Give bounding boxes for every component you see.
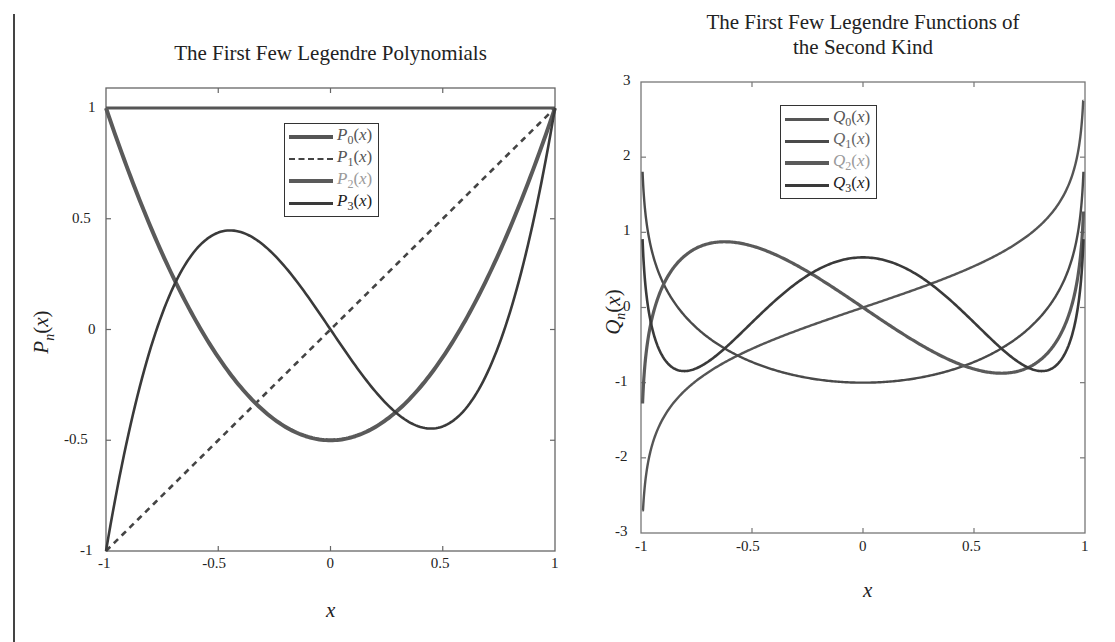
right-x-axis-label: x	[863, 578, 872, 603]
right-y-tick-label: 2	[623, 147, 631, 164]
right-legend-label: Q3(x)	[833, 173, 870, 196]
right-y-label-x: x	[601, 296, 625, 305]
left-y-label-arg: (	[29, 327, 53, 334]
left-y-tick-label: 0	[88, 321, 96, 338]
right-legend-label: Q2(x)	[833, 151, 870, 174]
right-legend-entry-2: Q2(x)	[785, 152, 870, 174]
right-y-tick-label: 3	[623, 72, 631, 89]
right-x-tick-label: -1	[635, 538, 648, 555]
right-legend: Q0(x)Q1(x)Q2(x)Q3(x)	[780, 105, 877, 199]
figure-canvas	[0, 0, 1115, 642]
right-legend-line-swatch	[785, 184, 829, 187]
left-y-label-base: P	[29, 341, 53, 354]
left-x-tick-label: -0.5	[202, 555, 226, 572]
left-x-tick-label: 0	[327, 555, 335, 572]
right-x-tick-label: 0.5	[962, 538, 981, 555]
left-legend-entry-3: P3(x)	[289, 192, 372, 214]
right-x-tick-label: -0.5	[736, 538, 760, 555]
left-y-label-close: )	[29, 311, 53, 318]
left-x-tick-label: 1	[551, 555, 559, 572]
right-y-label-close: )	[601, 289, 625, 296]
right-y-tick-label: -2	[615, 448, 628, 465]
right-y-tick-label: 0	[623, 298, 631, 315]
left-legend-line-swatch	[289, 202, 333, 205]
left-legend-line-swatch	[289, 135, 333, 139]
left-legend-label: P2(x)	[337, 169, 372, 192]
right-legend-line-swatch	[785, 161, 829, 165]
right-legend-label: Q0(x)	[833, 107, 870, 130]
left-legend-entry-0: P0(x)	[289, 126, 372, 148]
left-y-tick-label: -1	[80, 542, 93, 559]
left-x-axis-label: x	[326, 598, 335, 623]
left-x-tick-label: 0.5	[431, 555, 450, 572]
left-y-axis-label: Pn(x)	[29, 311, 57, 354]
right-chart-title-line1: The First Few Legendre Functions of	[641, 10, 1085, 35]
right-legend-entry-3: Q3(x)	[785, 174, 870, 196]
right-y-tick-label: 1	[623, 222, 631, 239]
left-legend: P0(x)P1(x)P2(x)P3(x)	[284, 123, 379, 217]
right-y-label-base: Q	[601, 320, 625, 335]
left-x-tick-label: -1	[98, 555, 111, 572]
right-x-tick-label: 1	[1081, 538, 1089, 555]
right-y-tick-label: -3	[615, 523, 628, 540]
left-legend-label: P1(x)	[337, 147, 372, 170]
left-legend-entry-2: P2(x)	[289, 170, 372, 192]
right-curve-q3	[643, 239, 1084, 371]
right-x-tick-label: 0	[859, 538, 867, 555]
left-legend-entry-1: P1(x)	[289, 148, 372, 170]
left-legend-line-swatch	[289, 179, 333, 183]
right-legend-entry-1: Q1(x)	[785, 130, 870, 152]
left-legend-line-swatch	[289, 158, 333, 160]
left-y-label-sub: n	[42, 334, 57, 341]
left-legend-label: P3(x)	[337, 191, 372, 214]
right-legend-entry-0: Q0(x)	[785, 108, 870, 130]
left-chart-title: The First Few Legendre Polynomials	[106, 41, 555, 66]
right-curve-q1	[643, 172, 1084, 383]
left-y-tick-label: 1	[88, 99, 96, 116]
right-chart-title: The First Few Legendre Functions of the …	[641, 10, 1085, 60]
right-y-label-open: (	[601, 306, 625, 313]
right-legend-line-swatch	[785, 118, 829, 121]
right-chart-title-line2: the Second Kind	[641, 35, 1085, 60]
left-y-label-x: x	[29, 318, 53, 327]
right-curve-q2	[643, 212, 1084, 404]
right-legend-label: Q1(x)	[833, 129, 870, 152]
left-legend-label: P0(x)	[337, 125, 372, 148]
left-y-tick-label: -0.5	[64, 431, 88, 448]
right-y-tick-label: -1	[615, 373, 628, 390]
left-y-tick-label: 0.5	[72, 210, 91, 227]
right-legend-line-swatch	[785, 140, 829, 143]
